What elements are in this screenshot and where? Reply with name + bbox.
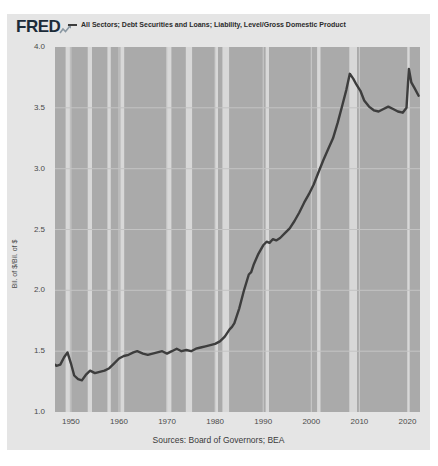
x-tick-label: 2020 [390, 417, 424, 426]
x-tick-label: 1980 [198, 417, 232, 426]
x-tick-label: 1950 [54, 417, 88, 426]
x-tick-label: 1970 [150, 417, 184, 426]
screenshot-root: FRED All Sectors; Debt Securities and Lo… [0, 0, 438, 466]
x-tick-label: 1990 [246, 417, 280, 426]
x-tick-label: 2010 [342, 417, 376, 426]
plot-area [55, 47, 420, 412]
x-tick-label: 2000 [294, 417, 328, 426]
fred-chart-card: FRED All Sectors; Debt Securities and Lo… [7, 14, 430, 450]
x-tick-label: 1960 [102, 417, 136, 426]
source-note: Sources: Board of Governors; BEA [7, 435, 430, 445]
